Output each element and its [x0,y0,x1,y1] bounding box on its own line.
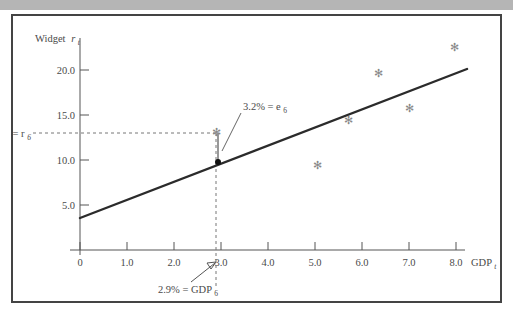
figure-frame: 20.0 15.0 10.0 5.0 0 1.0 2.0 3.0 4.0 5.0… [11,14,502,303]
y-axis-title-var: r [71,33,76,44]
x-value-annotation-sub: 6 [214,289,218,298]
x-tick-label-1: 1.0 [120,257,133,268]
residual-leader-line [222,113,241,151]
y-tick-label-15: 15.0 [57,110,75,121]
regression-line [80,69,467,218]
data-point: ✻ [313,159,322,171]
data-point: ✻ [405,102,414,114]
data-point: ✻ [212,126,221,138]
residual-annotation-text: 3.2% = e [243,101,281,112]
y-tick-label-10: 10.0 [57,155,75,166]
x-tick-label-4: 4.0 [261,257,274,268]
y-tick-label-20: 20.0 [57,65,75,76]
top-banner [0,0,513,10]
gdp-annotation-arrow-shaft [191,263,215,282]
y-tick-label-5: 5.0 [62,200,75,211]
fitted-value-dot [215,159,221,165]
y-value-annotation-text: 13.0% = r [13,128,25,139]
x-tick-label-0: 0 [77,257,82,268]
data-point: ✻ [344,114,353,126]
y-axis-title-main: Widget [35,33,66,44]
data-point: ✻ [450,41,459,53]
x-tick-label-8: 8.0 [449,257,462,268]
scatter-plot: 20.0 15.0 10.0 5.0 0 1.0 2.0 3.0 4.0 5.0… [13,16,500,301]
residual-annotation: 3.2% = e 6 [243,101,287,115]
x-tick-label-7: 7.0 [402,257,415,268]
y-value-annotation-sub: 6 [27,133,31,142]
x-axis-title-main: GDP [471,257,492,268]
x-tick-label-2: 2.0 [167,257,180,268]
x-axis-title: GDP t [471,257,497,271]
x-axis-title-sub: t [494,262,497,271]
x-tick-label-6: 6.0 [355,257,368,268]
y-axis-title: Widget r t [35,33,81,47]
residual-annotation-sub: 6 [283,106,287,115]
x-tick-label-5: 5.0 [308,257,321,268]
data-point: ✻ [374,67,383,79]
y-value-annotation: 13.0% = r 6 [13,128,31,142]
x-value-annotation-text: 2.9% = GDP [158,284,212,295]
x-value-annotation: 2.9% = GDP 6 [158,284,218,298]
